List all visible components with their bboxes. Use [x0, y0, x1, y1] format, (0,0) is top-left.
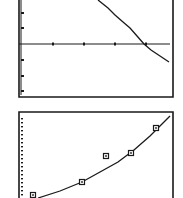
y-tick — [21, 146, 23, 147]
data-point-center — [130, 152, 132, 154]
bottom-graph-panel — [0, 100, 183, 198]
y-tick — [21, 150, 23, 151]
y-tick — [21, 158, 23, 159]
y-tick — [21, 182, 23, 183]
y-tick — [21, 90, 24, 92]
top-graph-panel — [0, 0, 183, 100]
data-point-center — [155, 127, 157, 129]
y-tick — [21, 126, 23, 127]
y-tick — [21, 154, 23, 155]
data-point-center — [32, 194, 34, 196]
decay-curve — [98, 0, 169, 62]
y-tick — [21, 12, 24, 14]
y-tick — [21, 170, 23, 171]
x-tick — [52, 43, 54, 46]
y-tick — [21, 178, 23, 179]
y-tick — [21, 138, 23, 139]
data-point-center — [81, 181, 83, 183]
y-tick — [21, 122, 23, 123]
y-tick — [21, 118, 23, 119]
y-tick — [21, 162, 23, 163]
x-tick — [83, 43, 85, 46]
y-tick — [21, 134, 23, 135]
y-tick — [21, 75, 24, 77]
y-tick — [21, 166, 23, 167]
y-tick — [21, 194, 23, 195]
y-tick — [21, 59, 24, 61]
x-tick — [114, 43, 116, 46]
scatter-fit-graph — [0, 100, 183, 198]
decay-curve-graph — [0, 0, 183, 100]
y-tick — [21, 130, 23, 131]
data-point-center — [105, 155, 107, 157]
y-tick — [21, 186, 23, 187]
y-tick — [21, 190, 23, 191]
y-tick — [21, 142, 23, 143]
y-tick — [21, 174, 23, 175]
y-tick — [21, 27, 24, 29]
frame-border — [19, 112, 173, 198]
